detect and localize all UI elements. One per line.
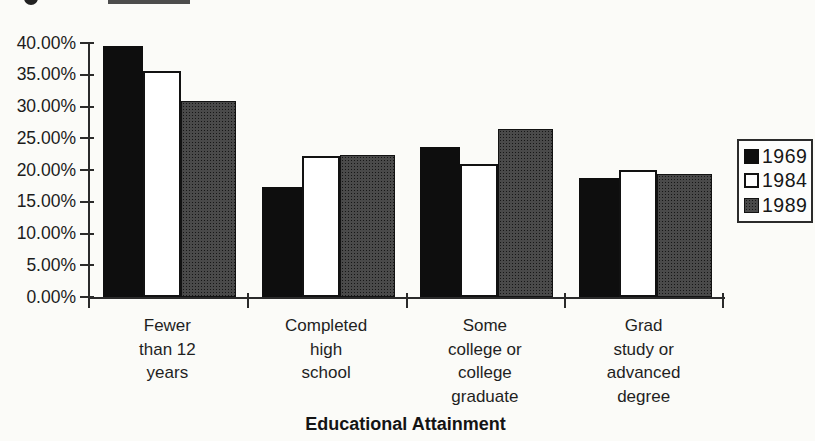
y-axis-tick — [80, 233, 94, 235]
y-axis-tick-label: 5.00% — [0, 256, 76, 275]
y-axis-tick-label: 0.00% — [0, 288, 76, 307]
y-axis-tick — [80, 106, 94, 108]
bar-1984-fewer-than-12-years — [143, 71, 181, 297]
y-axis-tick — [80, 296, 94, 298]
y-axis-tick — [80, 42, 94, 44]
legend-item-1989: 1989 — [744, 194, 811, 217]
y-axis-tick — [80, 264, 94, 266]
y-axis-tick — [80, 74, 94, 76]
plot-area — [88, 43, 725, 299]
legend-label-1989: 1989 — [762, 194, 807, 217]
bar-group-some — [408, 43, 567, 297]
x-axis-tick — [88, 293, 90, 308]
y-axis-tick — [80, 201, 94, 203]
legend: 196919841989 — [737, 139, 813, 223]
legend-swatch-1969 — [744, 149, 759, 164]
y-axis-tick — [80, 169, 94, 171]
cropped-caption-line — [108, 0, 190, 4]
category-label-grad: Grad study or advanced degree — [564, 314, 723, 408]
category-label-fewer: Fewer than 12 years — [88, 314, 247, 385]
bar-1989-fewer-than-12-years — [181, 101, 236, 297]
y-axis-tick-label: 15.00% — [0, 192, 76, 211]
legend-label-1969: 1969 — [762, 145, 807, 168]
legend-item-1984: 1984 — [744, 169, 811, 192]
y-axis-tick-label: 35.00% — [0, 65, 76, 84]
x-axis-tick — [406, 293, 408, 308]
category-label-completed: Completed high school — [247, 314, 406, 385]
x-axis-tick — [247, 293, 249, 308]
y-axis-tick-label: 30.00% — [0, 97, 76, 116]
bar-1969-completed-high-school — [262, 187, 302, 297]
x-axis-tick — [722, 293, 724, 308]
y-axis-tick-label: 10.00% — [0, 224, 76, 243]
legend-swatch-1984 — [744, 173, 759, 188]
bar-1989-grad-study-or-advanced-degree — [657, 174, 712, 297]
y-axis-tick-label: 20.00% — [0, 161, 76, 180]
y-axis-tick-label: 25.00% — [0, 129, 76, 148]
bar-group-fewer — [90, 43, 249, 297]
bar-group-grad — [566, 43, 725, 297]
cropped-caption-fragment — [24, 0, 38, 5]
bar-1984-grad-study-or-advanced-degree — [619, 170, 657, 297]
legend-item-1969: 1969 — [744, 145, 811, 168]
bar-1984-completed-high-school — [302, 156, 340, 297]
bar-1984-some-college-or-college-graduate — [460, 164, 498, 297]
y-axis-tick-label: 40.00% — [0, 34, 76, 53]
chart-canvas: 0.00%5.00%10.00%15.00%20.00%25.00%30.00%… — [0, 0, 815, 441]
legend-swatch-1989 — [744, 198, 759, 213]
bar-1989-some-college-or-college-graduate — [498, 129, 553, 297]
legend-label-1984: 1984 — [762, 169, 807, 192]
bar-1989-completed-high-school — [340, 155, 395, 297]
category-label-some: Some college or college graduate — [406, 314, 565, 408]
bar-1969-some-college-or-college-graduate — [420, 147, 460, 297]
bar-1969-fewer-than-12-years — [103, 46, 143, 297]
bar-1969-grad-study-or-advanced-degree — [579, 178, 619, 297]
y-axis-tick — [80, 137, 94, 139]
x-axis-tick — [564, 293, 566, 308]
x-axis-title: Educational Attainment — [88, 414, 723, 435]
bar-group-completed — [249, 43, 408, 297]
